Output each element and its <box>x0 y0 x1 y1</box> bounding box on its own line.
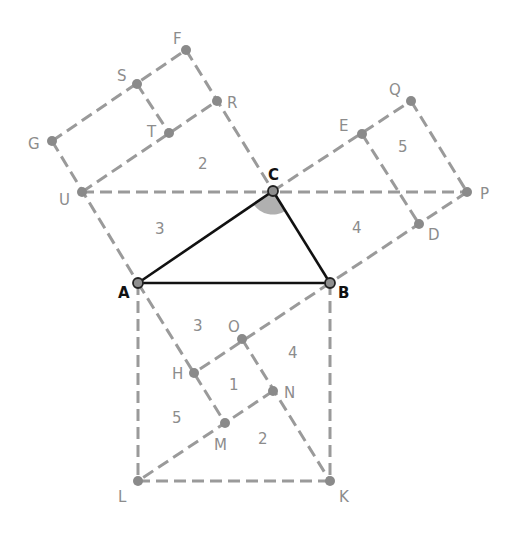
segment-pb <box>330 192 467 283</box>
point-t <box>164 128 174 138</box>
point-g <box>47 136 57 146</box>
point-n <box>268 386 278 396</box>
segment-ga <box>52 141 138 283</box>
point-s <box>132 79 142 89</box>
label-b: B <box>338 284 349 302</box>
region-number: 2 <box>258 430 268 448</box>
label-t: T <box>146 123 157 141</box>
label-a: A <box>118 284 130 302</box>
side-bc <box>273 191 330 283</box>
region-number: 1 <box>229 376 239 394</box>
square-on-ac <box>52 50 467 283</box>
point-b <box>325 278 335 288</box>
point-a <box>133 278 143 288</box>
construction-points <box>47 45 472 486</box>
region-number: 4 <box>352 219 362 237</box>
region-number: 3 <box>155 220 165 238</box>
point-k <box>325 476 335 486</box>
label-g: G <box>28 135 40 153</box>
segment-ok <box>242 339 330 481</box>
point-u <box>77 187 87 197</box>
point-p <box>462 187 472 197</box>
label-s: S <box>117 67 127 85</box>
point-e <box>357 129 367 139</box>
segment-ed <box>362 134 419 224</box>
point-h <box>189 368 199 378</box>
label-c: C <box>268 166 279 184</box>
region-number: 5 <box>398 138 408 156</box>
point-l <box>133 476 143 486</box>
point-d <box>414 219 424 229</box>
label-h: H <box>172 365 183 383</box>
segment-qp <box>411 101 467 192</box>
point-r <box>212 96 222 106</box>
point-c <box>268 186 278 196</box>
label-p: P <box>480 185 489 203</box>
segment-am <box>138 283 225 423</box>
region-number: 2 <box>198 155 208 173</box>
label-q: Q <box>389 81 401 99</box>
label-e: E <box>339 117 348 135</box>
triangle-abc <box>138 191 330 283</box>
label-o: O <box>228 318 240 336</box>
region-number: 4 <box>288 344 298 362</box>
point-f <box>181 45 191 55</box>
label-k: K <box>339 488 350 506</box>
segment-ur <box>82 101 217 192</box>
region-number: 3 <box>193 317 203 335</box>
label-d: D <box>428 226 440 244</box>
segment-nl <box>138 391 273 481</box>
segment-bh <box>194 283 330 373</box>
label-f: F <box>173 30 182 48</box>
point-m <box>220 418 230 428</box>
region-number: 5 <box>172 409 182 427</box>
point-q <box>406 96 416 106</box>
label-m: M <box>214 436 227 454</box>
label-r: R <box>227 94 237 112</box>
label-l: L <box>118 488 127 506</box>
segment-cq <box>273 101 411 191</box>
label-u: U <box>59 191 70 209</box>
pythagorean-diagram: F S R T G U Q E P D O H N M L K A B C 2 … <box>0 0 518 533</box>
label-n: N <box>284 384 295 402</box>
segment-gf <box>52 50 186 141</box>
